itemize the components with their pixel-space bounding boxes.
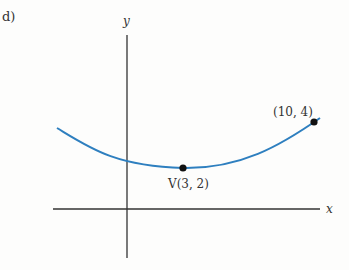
part-label: d) bbox=[2, 9, 15, 24]
x-axis-label: x bbox=[326, 202, 333, 216]
point-label: (10, 4) bbox=[273, 105, 313, 119]
vertex-point bbox=[179, 164, 186, 171]
parabola-curve bbox=[57, 118, 320, 168]
vertex-label: V(3, 2) bbox=[167, 177, 209, 191]
parabola-graph: d) y x V(3, 2) (10, 4) bbox=[0, 0, 349, 270]
y-axis-label: y bbox=[122, 14, 130, 28]
point-10-4 bbox=[310, 118, 317, 125]
